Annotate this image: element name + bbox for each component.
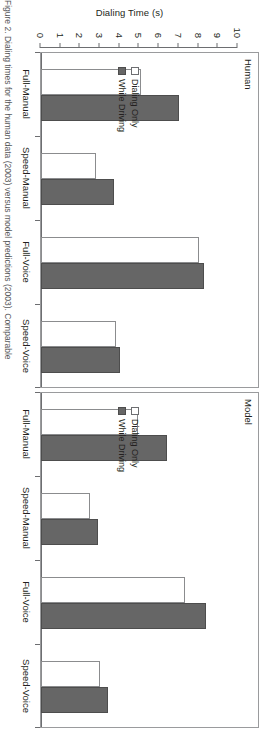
y-axis-tick-mark	[40, 43, 41, 48]
bar-human-speed-voice-while-driving	[41, 347, 120, 373]
category-tick-mark	[35, 644, 40, 645]
category-tick-mark	[35, 304, 40, 305]
y-axis-tick-mark	[79, 43, 80, 48]
category-label-full-manual: Full-Manual	[21, 69, 32, 119]
y-axis-tick-label: 8	[192, 22, 203, 38]
y-axis-tick-mark	[197, 43, 198, 48]
panel-human: HumanDialing OnlyWhile Driving	[40, 52, 259, 388]
legend-swatch-icon	[131, 67, 139, 75]
legend: Dialing OnlyWhile Driving	[117, 407, 140, 472]
bar-human-full-voice-dialing-only	[41, 237, 199, 263]
y-axis-tick-mark	[99, 43, 100, 48]
category-tick-mark	[35, 387, 40, 388]
y-axis-tick-label: 5	[133, 22, 144, 38]
figure-caption-wrap: Figure 2. Dialing times for the human da…	[0, 0, 16, 735]
y-axis-tick-label: 3	[94, 22, 105, 38]
y-axis-tick-label: 0	[35, 22, 46, 38]
category-label-full-voice: Full-Voice	[21, 241, 32, 283]
bar-model-full-manual-while-driving	[41, 435, 167, 461]
category-label-speed-manual: Speed-Manual	[21, 147, 32, 209]
legend-swatch-icon	[131, 407, 139, 415]
y-axis-tick-label: 10	[232, 22, 243, 38]
category-label-full-voice: Full-Voice	[21, 581, 32, 623]
legend-item: Dialing Only	[130, 407, 140, 472]
bar-human-speed-manual-while-driving	[41, 179, 114, 205]
legend-label: While Driving	[117, 79, 127, 132]
y-axis-tick-mark	[217, 43, 218, 48]
y-axis-tick-label: 4	[113, 22, 124, 38]
y-axis-tick-mark	[118, 43, 119, 48]
bar-model-full-voice-dialing-only	[41, 577, 185, 603]
y-axis-tick-label: 2	[74, 22, 85, 38]
y-axis-tick-label: 7	[172, 22, 183, 38]
legend-item: While Driving	[117, 67, 127, 132]
panel-title: Model	[243, 399, 254, 425]
legend-item: Dialing Only	[130, 67, 140, 132]
y-axis-tick-label: 9	[212, 22, 223, 38]
category-tick-mark	[35, 52, 40, 53]
bar-human-speed-manual-dialing-only	[41, 153, 96, 179]
y-axis-tick-mark	[237, 43, 238, 48]
plot-area: HumanDialing OnlyWhile DrivingFull-Manua…	[0, 52, 259, 735]
y-axis-tick-label: 6	[153, 22, 164, 38]
bar-model-speed-manual-while-driving	[41, 519, 98, 545]
legend-swatch-icon	[118, 67, 126, 75]
bar-model-full-voice-while-driving	[41, 603, 206, 629]
y-axis-tick-mark	[158, 43, 159, 48]
legend-label: Dialing Only	[130, 79, 140, 128]
category-label-speed-voice: Speed-Voice	[21, 659, 32, 713]
y-axis-tick-mark	[59, 43, 60, 48]
category-label-speed-voice: Speed-Voice	[21, 319, 32, 373]
y-axis-tick-label: 1	[54, 22, 65, 38]
category-tick-mark	[35, 392, 40, 393]
category-tick-mark	[35, 136, 40, 137]
y-axis-scale: 012345678910	[0, 20, 259, 50]
legend: Dialing OnlyWhile Driving	[117, 67, 140, 132]
dialing-time-chart: Dialing Time (s) 012345678910 HumanDiali…	[0, 0, 259, 735]
bar-human-full-voice-while-driving	[41, 263, 205, 289]
bar-model-speed-voice-dialing-only	[41, 661, 100, 687]
rotated-figure-wrapper: Dialing Time (s) 012345678910 HumanDiali…	[0, 0, 259, 735]
y-axis-tick-mark	[177, 43, 178, 48]
category-tick-mark	[35, 220, 40, 221]
figure-caption: Figure 2. Dialing times for the human da…	[0, 0, 16, 735]
bar-human-full-manual-while-driving	[41, 95, 179, 121]
bar-human-speed-voice-dialing-only	[41, 321, 116, 347]
category-tick-mark	[35, 476, 40, 477]
category-tick-mark	[35, 727, 40, 728]
panel-model: ModelDialing OnlyWhile Driving	[40, 392, 259, 728]
y-axis-tick-mark	[138, 43, 139, 48]
bar-model-speed-manual-dialing-only	[41, 493, 90, 519]
legend-label: Dialing Only	[130, 419, 140, 468]
panel-title: Human	[243, 59, 254, 90]
category-label-full-manual: Full-Manual	[21, 409, 32, 459]
category-label-speed-manual: Speed-Manual	[21, 487, 32, 549]
bar-model-speed-voice-while-driving	[41, 687, 108, 713]
legend-item: While Driving	[117, 407, 127, 472]
legend-label: While Driving	[117, 419, 127, 472]
y-axis-title-text: Dialing Time (s)	[96, 8, 164, 19]
category-tick-mark	[35, 560, 40, 561]
legend-swatch-icon	[118, 407, 126, 415]
